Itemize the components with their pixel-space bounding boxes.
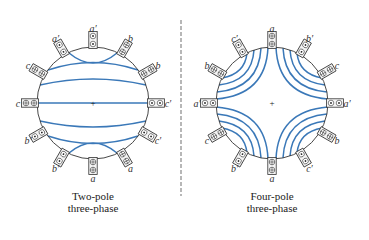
four-pole-slot-cross-icon (317, 64, 336, 80)
two-pole-caption: Two-pole three-phase (43, 190, 143, 214)
four-pole-slot-label: b′ (231, 163, 239, 174)
two-pole-slot-label: c′ (165, 98, 172, 109)
two-pole-slot-label: a′ (52, 33, 60, 44)
four-pole-slot-label: a′ (193, 98, 201, 109)
two-pole-slot-label: b′ (52, 163, 60, 174)
four-pole-slot-label: b (205, 60, 210, 71)
four-pole-slot-cross-icon (268, 32, 276, 49)
two-pole-slot-dot-icon (148, 99, 165, 107)
four-pole-caption: Four-pole three-phase (222, 190, 322, 214)
two-pole-slot-label: a′ (89, 23, 97, 34)
four-pole-slot-cross-icon (208, 64, 227, 80)
four-pole-caption-line1: Four-pole (222, 190, 322, 202)
four-pole-slot-cross-icon (317, 127, 336, 143)
two-pole-slot-label: c (26, 60, 31, 71)
four-pole-center-mark: + (269, 98, 274, 108)
two-pole-slot-cross-icon (29, 64, 48, 80)
four-pole-slot-label: b′ (306, 33, 314, 44)
four-pole-slot-label: c′ (231, 33, 238, 44)
two-pole-slot-label: c′ (155, 135, 162, 146)
two-pole-slot-label: c (16, 98, 21, 109)
two-pole-caption-line1: Two-pole (43, 190, 143, 202)
four-pole-slot-label: a′ (343, 98, 351, 109)
two-pole-diagram: a′bbc′c′aab′b′cca′ + (16, 23, 172, 184)
four-pole-slot-label: a (270, 23, 275, 34)
four-pole-caption-line2: three-phase (222, 202, 322, 214)
two-pole-slot-label: a (128, 163, 133, 174)
two-pole-slot-label: b (156, 60, 161, 71)
two-pole-slot-label: a (91, 173, 96, 184)
two-pole-slot-cross-icon (138, 64, 157, 80)
four-pole-slot-dot-icon (201, 99, 218, 107)
four-pole-slot-dot-icon (327, 99, 344, 107)
two-pole-slot-dot-icon (89, 32, 97, 49)
two-pole-slot-dot-icon (29, 127, 48, 143)
four-pole-slot-label: b (335, 135, 340, 146)
four-pole-slot-label: c′ (306, 163, 313, 174)
two-pole-slot-label: b′ (24, 135, 32, 146)
two-pole-slot-label: b (128, 33, 133, 44)
four-pole-slot-label: c (335, 60, 340, 71)
four-pole-slot-label: a (270, 173, 275, 184)
two-pole-caption-line2: three-phase (43, 202, 143, 214)
four-pole-diagram: ab′ca′bc′ab′ca′bc′ + (193, 23, 351, 184)
four-pole-slot-label: c (205, 135, 210, 146)
two-pole-center-mark: + (90, 98, 95, 108)
four-pole-slot-cross-icon (208, 127, 227, 143)
two-pole-slot-cross-icon (22, 99, 39, 107)
